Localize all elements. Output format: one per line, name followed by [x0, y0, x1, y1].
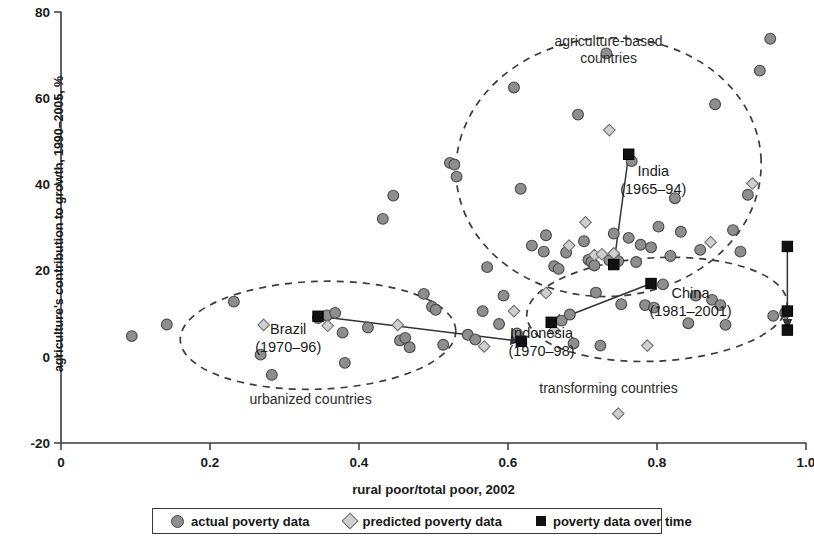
data-point-actual [339, 357, 350, 368]
y-tick-label: 20 [35, 263, 50, 278]
data-point-predicted [642, 340, 654, 352]
legend-item[interactable]: predicted poverty data [344, 514, 502, 529]
circle-marker-icon [171, 515, 184, 528]
data-point-actual [595, 340, 606, 351]
data-point-actual [710, 99, 721, 110]
x-tick-label: 0.2 [201, 455, 220, 470]
axis-lines [61, 12, 806, 443]
legend-item-label: poverty data over time [553, 514, 692, 529]
data-point-actual [754, 65, 765, 76]
data-point-over-time [646, 278, 656, 288]
y-tick-label: 60 [35, 91, 50, 106]
country-track-label: India [638, 163, 670, 179]
data-point-actual [337, 327, 348, 338]
data-point-actual [742, 189, 753, 200]
group-ellipse-label: urbanized countries [249, 391, 371, 407]
y-axis-title: agriculture's contribution to growth, 19… [49, 14, 67, 434]
country-track-period: (1981–2001) [649, 303, 731, 319]
annotations-layer: agriculture-basedcountriesurbanized coun… [249, 33, 731, 407]
data-point-actual [658, 279, 669, 290]
group-ellipse-label: transforming countries [539, 380, 678, 396]
x-axis-title: rural poor/total poor, 2002 [61, 480, 806, 498]
data-point-actual [470, 334, 481, 345]
data-point-actual [228, 296, 239, 307]
data-point-actual [494, 319, 505, 330]
country-track-label: Brazil [270, 321, 306, 337]
data-point-actual [665, 251, 676, 262]
data-point-actual [720, 320, 731, 331]
data-point-over-time [782, 241, 792, 251]
data-point-actual [683, 318, 694, 329]
data-point-predicted [258, 319, 270, 331]
data-point-actual [363, 322, 374, 333]
x-tick-label: 0 [57, 455, 65, 470]
data-point-actual [573, 109, 584, 120]
data-point-actual [388, 190, 399, 201]
data-point-actual [608, 228, 619, 239]
data-point-actual [498, 290, 509, 301]
data-point-actual [477, 306, 488, 317]
x-tick-label: 0.8 [648, 455, 667, 470]
country-track-line [614, 154, 629, 264]
data-point-actual [675, 226, 686, 237]
data-point-over-time [609, 259, 619, 269]
data-point-actual [161, 319, 172, 330]
data-point-actual [695, 245, 706, 256]
y-tick-label: -20 [30, 436, 50, 451]
y-axis-title-text: agriculture's contribution to growth, 19… [52, 76, 66, 372]
country-track-label: Indonesia [510, 325, 574, 341]
legend-item-label: actual poverty data [191, 514, 310, 529]
data-point-actual [330, 307, 341, 318]
data-point-predicted [705, 236, 717, 248]
legend-item[interactable]: poverty data over time [536, 514, 692, 529]
data-point-actual [616, 299, 627, 310]
data-point-actual [430, 304, 441, 315]
data-point-actual [735, 246, 746, 257]
data-point-predicted [540, 287, 552, 299]
scatter-chart: -2002040608000.20.40.60.81.0 agriculture… [0, 0, 814, 542]
data-point-actual [509, 82, 520, 93]
square-marker-icon [536, 516, 546, 526]
country-track-label: China [672, 285, 711, 301]
group-ellipse-label: agriculture-based [554, 33, 662, 49]
data-point-actual [377, 213, 388, 224]
data-point-actual [126, 331, 137, 342]
data-point-actual [623, 232, 634, 243]
legend-item-label: predicted poverty data [363, 514, 502, 529]
x-axis-title-text: rural poor/total poor, 2002 [352, 482, 515, 497]
x-tick-label: 0.6 [499, 455, 518, 470]
data-point-actual [653, 221, 664, 232]
data-point-actual [579, 236, 590, 247]
country-track-line [318, 316, 521, 341]
data-point-actual [591, 287, 602, 298]
chart-legend: actual poverty datapredicted poverty dat… [152, 508, 662, 534]
data-point-actual [538, 246, 549, 257]
data-point-actual [541, 230, 552, 241]
data-point-actual [482, 262, 493, 273]
plot-canvas: -2002040608000.20.40.60.81.0 agriculture… [0, 0, 814, 542]
data-point-actual [553, 263, 564, 274]
group-ellipse [178, 277, 457, 394]
data-point-actual [515, 183, 526, 194]
data-point-actual [451, 171, 462, 182]
data-points-layer [126, 33, 792, 419]
data-point-predicted [604, 124, 616, 136]
data-point-actual [728, 225, 739, 236]
data-point-predicted [392, 319, 404, 331]
data-point-actual [646, 242, 657, 253]
data-point-actual [635, 239, 646, 250]
country-track-period: (1970–98) [508, 343, 574, 359]
data-point-actual [765, 33, 776, 44]
data-point-actual [266, 370, 277, 381]
data-point-over-time [623, 149, 633, 159]
data-point-actual [418, 288, 429, 299]
data-point-actual [768, 310, 779, 321]
data-point-actual [438, 339, 449, 350]
data-point-over-time [782, 306, 792, 316]
y-tick-label: 80 [35, 5, 50, 20]
data-point-actual [564, 309, 575, 320]
legend-item[interactable]: actual poverty data [171, 514, 310, 529]
data-point-actual [631, 257, 642, 268]
data-point-predicted [580, 217, 592, 229]
data-point-predicted [508, 305, 520, 317]
